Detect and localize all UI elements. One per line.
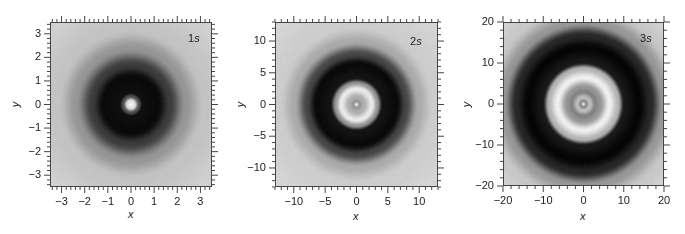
x-tick-label: 5 xyxy=(385,196,391,207)
y-tick-label: 0 xyxy=(488,98,494,109)
x-tick-label: −1 xyxy=(102,196,115,207)
x-tick-label: 0 xyxy=(353,196,359,207)
x-tick-label: 10 xyxy=(413,196,425,207)
x-tick-label: −10 xyxy=(534,195,553,206)
x-tick-label: 0 xyxy=(580,195,586,206)
y-tick-label: −20 xyxy=(475,180,494,191)
plot-area-1s xyxy=(50,22,212,187)
x-tick-label: 3 xyxy=(197,196,203,207)
density-heatmap-1s xyxy=(51,23,211,186)
y-tick-label: 1 xyxy=(35,75,41,86)
y-tick-label: 0 xyxy=(35,99,41,110)
y-tick-label: 2 xyxy=(35,51,41,62)
x-tick-label: −5 xyxy=(319,196,332,207)
y-tick-label: 3 xyxy=(35,28,41,39)
x-tick-label: −3 xyxy=(55,196,68,207)
x-tick-label: −20 xyxy=(494,195,513,206)
y-axis-label-2s: y xyxy=(235,102,246,108)
y-tick-label: 20 xyxy=(482,16,494,27)
orbital-label-1s: 1s xyxy=(188,33,200,44)
x-tick-label: 0 xyxy=(128,196,134,207)
y-tick-label: 5 xyxy=(260,67,266,78)
orbital-label-3s: 3s xyxy=(640,33,652,44)
orbital-label-2s: 2s xyxy=(410,36,422,47)
x-tick-label: −2 xyxy=(78,196,91,207)
x-axis-label-3s: x xyxy=(580,211,586,222)
y-axis-label-1s: y xyxy=(10,102,21,108)
y-tick-label: −1 xyxy=(28,122,41,133)
y-tick-label: 0 xyxy=(260,99,266,110)
y-tick-label: −2 xyxy=(28,146,41,157)
x-tick-label: 2 xyxy=(174,196,180,207)
x-axis-label-2s: x xyxy=(353,211,359,222)
y-tick-label: 10 xyxy=(254,35,266,46)
x-tick-label: −10 xyxy=(284,196,303,207)
y-tick-label: −10 xyxy=(475,139,494,150)
y-tick-label: −3 xyxy=(28,169,41,180)
x-tick-label: 1 xyxy=(151,196,157,207)
x-tick-label: 10 xyxy=(618,195,630,206)
density-heatmap-3s xyxy=(504,23,663,185)
y-axis-label-3s: y xyxy=(461,102,472,108)
y-tick-label: 10 xyxy=(482,57,494,68)
x-tick-label: 20 xyxy=(658,195,670,206)
y-tick-label: −10 xyxy=(247,162,266,173)
y-tick-label: −5 xyxy=(253,130,266,141)
x-axis-label-1s: x xyxy=(128,209,134,220)
density-heatmap-2s xyxy=(276,23,437,186)
plot-area-3s xyxy=(503,22,664,186)
